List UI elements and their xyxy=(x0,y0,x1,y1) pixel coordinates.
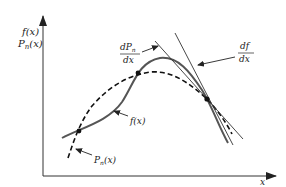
svg-text:dPn: dPn xyxy=(120,42,136,53)
arrow-to-f-curve xyxy=(114,111,128,116)
pn-curve xyxy=(68,72,232,158)
approximation-diagram: f(x) Pn(x) x dPn dx df dx f(x) Pn(x) xyxy=(0,0,286,187)
intersection-point-right xyxy=(204,96,209,101)
svg-text:f(x): f(x) xyxy=(129,116,146,126)
intersection-point-mid xyxy=(136,71,141,76)
intersection-point-left xyxy=(77,129,82,134)
x-axis-label: x xyxy=(260,177,265,187)
f-curve xyxy=(62,58,228,143)
svg-text:df: df xyxy=(240,41,251,51)
y-axis-label-f: f(x) xyxy=(21,26,39,37)
pn-curve-label: Pn(x) xyxy=(76,149,117,166)
svg-text:dx: dx xyxy=(123,55,134,65)
tangent-pn xyxy=(155,41,243,139)
svg-text:Pn(x): Pn(x) xyxy=(93,155,117,166)
arrow-to-pn-curve xyxy=(76,149,92,155)
svg-text:dx: dx xyxy=(239,54,250,64)
y-axis-label-p: Pn(x) xyxy=(17,38,43,51)
arrow-to-tangent-pn xyxy=(142,46,158,52)
tangent-f xyxy=(175,33,233,145)
derivative-f-label: df dx xyxy=(198,41,254,65)
axes xyxy=(43,16,276,176)
f-curve-label: f(x) xyxy=(114,111,146,126)
arrow-to-tangent-f xyxy=(198,57,235,65)
